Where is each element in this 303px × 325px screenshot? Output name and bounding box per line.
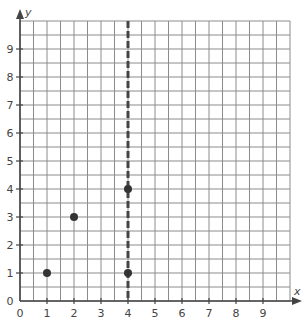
y-tick-label: 6: [7, 127, 14, 140]
data-point: [70, 213, 78, 221]
y-tick-label: 2: [7, 239, 14, 252]
x-tick-label: 6: [179, 307, 186, 320]
data-point: [124, 269, 132, 277]
x-tick-label: 2: [71, 307, 78, 320]
y-tick-label: 3: [7, 211, 14, 224]
x-tick-label: 4: [125, 307, 132, 320]
y-tick-label: 0: [7, 295, 14, 308]
y-axis-arrow-icon: [16, 9, 24, 19]
y-tick-label: 8: [7, 71, 14, 84]
x-tick-label: 9: [260, 307, 267, 320]
coordinate-plane: xy01234567890123456789: [0, 0, 303, 325]
x-tick-label: 5: [152, 307, 159, 320]
x-tick-label: 1: [44, 307, 51, 320]
x-tick-label: 7: [206, 307, 213, 320]
x-tick-label: 0: [17, 307, 24, 320]
x-axis-label: x: [293, 285, 301, 298]
y-tick-label: 1: [7, 267, 14, 280]
x-tick-label: 8: [233, 307, 240, 320]
y-tick-label: 9: [7, 43, 14, 56]
y-tick-label: 7: [7, 99, 14, 112]
x-tick-label: 3: [98, 307, 105, 320]
x-axis-arrow-icon: [292, 297, 302, 305]
y-axis-label: y: [24, 6, 32, 19]
data-point: [124, 185, 132, 193]
data-point: [43, 269, 51, 277]
y-tick-label: 5: [7, 155, 14, 168]
y-tick-label: 4: [7, 183, 14, 196]
